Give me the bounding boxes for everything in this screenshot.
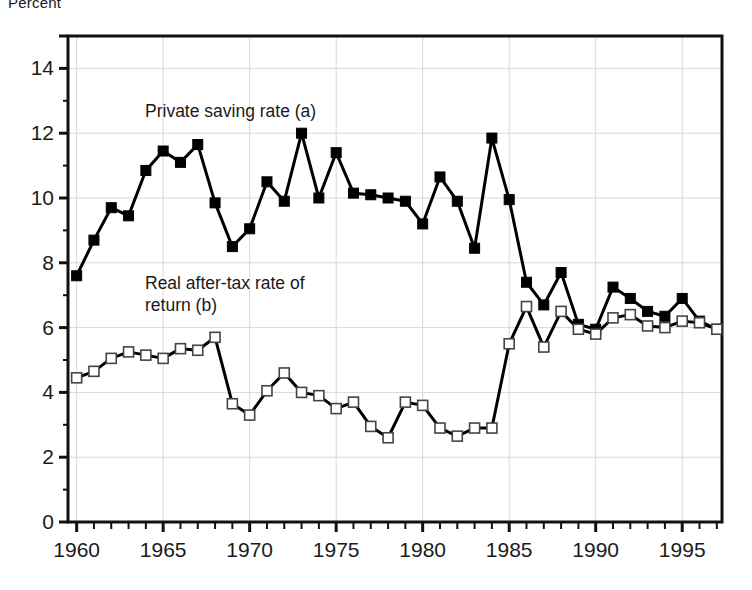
- data-point-marker: [193, 345, 203, 355]
- data-point-marker: [366, 190, 376, 200]
- data-point-marker: [89, 366, 99, 376]
- data-point-marker: [470, 243, 480, 253]
- x-axis-tick-label: 1970: [215, 538, 285, 562]
- data-point-marker: [695, 318, 705, 328]
- data-point-marker: [331, 148, 341, 158]
- data-point-marker: [279, 368, 289, 378]
- y-axis-tick-label: 2: [14, 445, 54, 469]
- data-point-marker: [158, 146, 168, 156]
- y-axis-tick-label: 12: [14, 121, 54, 145]
- data-point-marker: [487, 133, 497, 143]
- data-point-marker: [72, 271, 82, 281]
- data-point-marker: [643, 321, 653, 331]
- data-point-marker: [175, 157, 185, 167]
- data-point-marker: [470, 423, 480, 433]
- y-axis-tick-label: 6: [14, 316, 54, 340]
- y-axis-tick-label: 10: [14, 186, 54, 210]
- y-axis-tick-label: 4: [14, 380, 54, 404]
- x-axis-tick-label: 1980: [388, 538, 458, 562]
- data-point-marker: [487, 423, 497, 433]
- series-line-real-after-tax-return: [77, 307, 717, 438]
- data-point-marker: [660, 323, 670, 333]
- data-point-marker: [504, 339, 514, 349]
- data-point-marker: [608, 313, 618, 323]
- data-point-marker: [418, 400, 428, 410]
- data-point-marker: [279, 196, 289, 206]
- data-point-marker: [556, 306, 566, 316]
- data-point-marker: [677, 316, 687, 326]
- data-point-marker: [106, 353, 116, 363]
- y-axis-tick-label: 8: [14, 251, 54, 275]
- data-point-marker: [297, 387, 307, 397]
- data-point-marker: [435, 423, 445, 433]
- data-point-marker: [660, 311, 670, 321]
- series-annotation-private-saving-rate: Private saving rate (a): [145, 100, 316, 122]
- data-point-marker: [625, 310, 635, 320]
- x-axis-tick-label: 1995: [647, 538, 717, 562]
- series-annotation-real-after-tax-return: Real after-tax rate of return (b): [145, 272, 305, 316]
- data-point-marker: [106, 203, 116, 213]
- data-point-marker: [625, 293, 635, 303]
- data-point-marker: [262, 177, 272, 187]
- data-point-marker: [400, 397, 410, 407]
- data-point-marker: [400, 196, 410, 206]
- data-point-marker: [539, 300, 549, 310]
- x-axis-tick-label: 1960: [42, 538, 112, 562]
- data-point-marker: [348, 397, 358, 407]
- x-axis-tick-label: 1990: [561, 538, 631, 562]
- chart-figure: Percent 02468101214196019651970197519801…: [0, 0, 752, 590]
- x-axis-tick-label: 1965: [128, 538, 198, 562]
- data-point-marker: [573, 324, 583, 334]
- data-point-marker: [175, 344, 185, 354]
- data-point-marker: [383, 193, 393, 203]
- x-axis-tick-label: 1985: [474, 538, 544, 562]
- data-point-marker: [89, 235, 99, 245]
- data-point-marker: [245, 224, 255, 234]
- data-point-marker: [452, 196, 462, 206]
- data-point-marker: [193, 140, 203, 150]
- data-point-marker: [72, 373, 82, 383]
- data-point-marker: [348, 188, 358, 198]
- data-point-marker: [608, 282, 618, 292]
- data-point-marker: [210, 198, 220, 208]
- data-point-marker: [643, 306, 653, 316]
- data-point-marker: [366, 421, 376, 431]
- data-point-marker: [262, 386, 272, 396]
- data-point-marker: [677, 293, 687, 303]
- data-point-marker: [435, 172, 445, 182]
- data-point-marker: [141, 165, 151, 175]
- data-point-marker: [297, 128, 307, 138]
- y-axis-unit-label: Percent: [8, 0, 61, 11]
- data-point-marker: [141, 350, 151, 360]
- data-point-marker: [331, 404, 341, 414]
- data-point-marker: [452, 431, 462, 441]
- data-point-marker: [556, 268, 566, 278]
- data-point-marker: [383, 433, 393, 443]
- data-point-marker: [124, 347, 134, 357]
- x-axis-tick-label: 1975: [301, 538, 371, 562]
- data-point-marker: [314, 193, 324, 203]
- data-point-marker: [227, 399, 237, 409]
- data-point-marker: [418, 219, 428, 229]
- data-point-marker: [539, 342, 549, 352]
- y-axis-tick-label: 0: [14, 510, 54, 534]
- y-axis-tick-label: 14: [14, 56, 54, 80]
- data-point-marker: [227, 242, 237, 252]
- data-point-marker: [504, 195, 514, 205]
- chart-canvas: [0, 0, 752, 590]
- data-point-marker: [591, 329, 601, 339]
- data-point-marker: [314, 391, 324, 401]
- data-point-marker: [245, 410, 255, 420]
- data-point-marker: [210, 332, 220, 342]
- data-point-marker: [712, 324, 722, 334]
- data-point-marker: [158, 353, 168, 363]
- data-point-marker: [521, 302, 531, 312]
- data-point-marker: [521, 277, 531, 287]
- data-point-marker: [124, 211, 134, 221]
